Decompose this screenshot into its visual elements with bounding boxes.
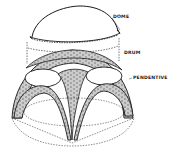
pendentive-vault bbox=[12, 50, 133, 140]
label-pendentive: PENDENTIVE bbox=[133, 76, 168, 81]
architecture-drawing bbox=[0, 0, 176, 164]
label-drum: DRUM bbox=[124, 51, 140, 56]
dome bbox=[30, 6, 120, 43]
label-dome: DOME bbox=[113, 15, 129, 20]
